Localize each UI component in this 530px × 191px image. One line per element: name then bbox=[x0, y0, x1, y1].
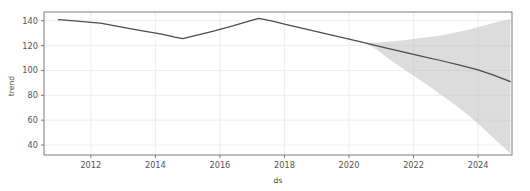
x-tick-label: 2018 bbox=[274, 160, 295, 170]
x-tick-label: 2022 bbox=[403, 160, 424, 170]
y-tick-label: 120 bbox=[22, 41, 38, 51]
x-tick-label: 2020 bbox=[339, 160, 360, 170]
y-axis-tick-labels: 406080100120140 bbox=[22, 16, 38, 150]
x-tick-label: 2012 bbox=[80, 160, 101, 170]
y-tick-label: 80 bbox=[28, 90, 38, 100]
y-tick-label: 40 bbox=[28, 140, 38, 150]
y-tick-label: 140 bbox=[22, 16, 38, 26]
x-axis-title: ds bbox=[274, 176, 283, 185]
x-axis-tick-labels: 2012201420162018202020222024 bbox=[80, 160, 488, 170]
trend-chart-svg: 406080100120140 201220142016201820202022… bbox=[0, 0, 530, 191]
y-axis-title: trend bbox=[7, 76, 16, 96]
x-tick-label: 2016 bbox=[209, 160, 230, 170]
x-tick-label: 2024 bbox=[468, 160, 489, 170]
y-tick-label: 60 bbox=[28, 115, 38, 125]
x-tick-label: 2014 bbox=[145, 160, 166, 170]
trend-component-figure: 406080100120140 201220142016201820202022… bbox=[0, 0, 530, 191]
y-tick-label: 100 bbox=[22, 65, 38, 75]
